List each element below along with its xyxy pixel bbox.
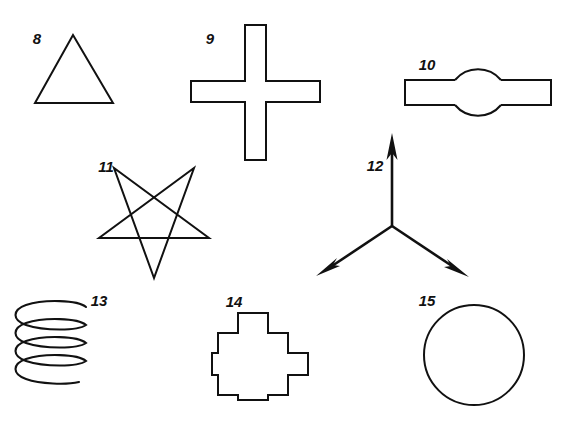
circle-upper-arc	[455, 69, 501, 80]
arrow-arm-down-right	[392, 226, 455, 268]
figure-label-10: 10	[419, 56, 436, 73]
arrow-arm-down-left	[329, 226, 392, 268]
figure-label-11: 11	[98, 158, 114, 175]
arrow-head-down-left-icon	[316, 258, 340, 276]
figure-label-14: 14	[226, 293, 243, 310]
figure-14-stepped-cross: 14	[212, 293, 308, 400]
figure-8-triangle: 8	[33, 30, 113, 103]
figure-plate-canvas: 8 9 10 11	[0, 0, 573, 425]
triangle-outline	[35, 35, 113, 103]
figure-label-8: 8	[33, 30, 42, 47]
figure-sheet: 8 9 10 11	[0, 0, 573, 425]
figure-9-greek-cross: 9	[191, 25, 320, 160]
bar-right-segment	[501, 80, 551, 105]
figure-15-circle: 15	[419, 292, 524, 405]
pentagram-outline	[99, 168, 209, 278]
circle-lower-arc	[455, 105, 501, 116]
spring-coil-path	[16, 301, 87, 384]
circle-outline	[424, 305, 524, 405]
stepped-cross-outline	[212, 313, 308, 400]
figure-label-15: 15	[419, 292, 436, 309]
figure-13-helix-spring: 13	[16, 292, 108, 384]
figure-label-13: 13	[91, 292, 108, 309]
figure-11-pentagram-star: 11	[98, 158, 209, 278]
figure-label-12: 12	[367, 157, 384, 174]
bar-left-segment	[405, 80, 455, 105]
figure-12-three-way-arrow: 12	[316, 133, 469, 277]
figure-label-9: 9	[206, 30, 215, 47]
figure-10-circle-with-bar: 10	[405, 56, 551, 116]
